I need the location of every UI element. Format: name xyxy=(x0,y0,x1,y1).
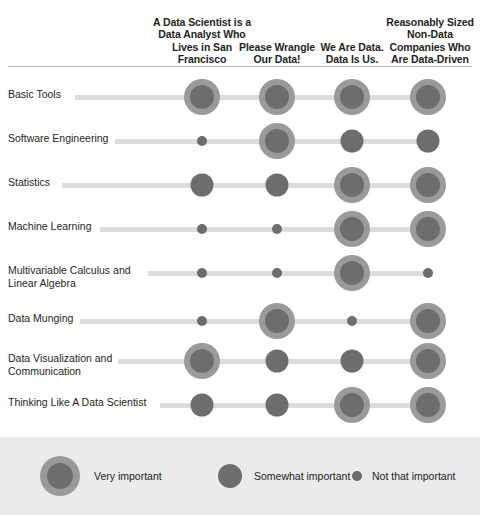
bubble-small[interactable] xyxy=(197,224,207,234)
legend-label-very-important: Very important xyxy=(94,470,162,482)
row-label: Data Munging xyxy=(8,312,73,325)
bubble-large[interactable] xyxy=(334,79,370,115)
bubble-large[interactable] xyxy=(410,211,446,247)
bubble-large[interactable] xyxy=(334,211,370,247)
bubble-small[interactable] xyxy=(272,224,282,234)
bubble-large[interactable] xyxy=(410,167,446,203)
row-label: Machine Learning xyxy=(8,220,91,233)
row-connector-line xyxy=(62,183,428,188)
bubble-chart: A Data Scientist is a Data Analyst Who L… xyxy=(0,0,480,515)
bubble-medium[interactable] xyxy=(341,130,364,153)
bubble-medium[interactable] xyxy=(341,350,364,373)
bubble-large[interactable] xyxy=(334,255,370,291)
bubble-small[interactable] xyxy=(197,316,207,326)
bubble-large[interactable] xyxy=(410,303,446,339)
bubble-medium[interactable] xyxy=(191,174,214,197)
bubble-large[interactable] xyxy=(410,343,446,379)
row-label: Basic Tools xyxy=(8,88,61,101)
legend-item-not-that-important[interactable]: Not that important xyxy=(352,470,455,482)
bubble-medium[interactable] xyxy=(266,394,289,417)
bubble-small[interactable] xyxy=(347,316,357,326)
row-connector-line xyxy=(100,227,428,232)
row-label: Software Engineering xyxy=(8,132,108,145)
bubble-small[interactable] xyxy=(197,136,207,146)
bubble-small[interactable] xyxy=(197,268,207,278)
bubble-large[interactable] xyxy=(184,343,220,379)
legend-bubble-medium-icon xyxy=(218,464,242,488)
bubble-medium[interactable] xyxy=(417,130,440,153)
row-connector-line xyxy=(75,95,428,100)
bubble-large[interactable] xyxy=(334,387,370,423)
legend-bubble-small-icon xyxy=(352,471,362,481)
bubble-medium[interactable] xyxy=(191,394,214,417)
legend-label-not-that-important: Not that important xyxy=(372,470,455,482)
row-connector-line xyxy=(80,319,428,324)
bubble-large[interactable] xyxy=(410,387,446,423)
legend-bubble-large-icon xyxy=(40,456,80,496)
legend-item-somewhat-important[interactable]: Somewhat important xyxy=(218,464,350,488)
bubble-large[interactable] xyxy=(184,79,220,115)
legend-item-very-important[interactable]: Very important xyxy=(40,456,162,496)
row-label: Thinking Like A Data Scientist xyxy=(8,396,146,409)
legend: Very important Somewhat important Not th… xyxy=(0,437,480,515)
row-label: Statistics xyxy=(8,176,50,189)
bubble-medium[interactable] xyxy=(266,174,289,197)
legend-label-somewhat-important: Somewhat important xyxy=(254,470,350,482)
bubble-small[interactable] xyxy=(423,268,433,278)
row-connector-line xyxy=(148,271,428,276)
bubble-large[interactable] xyxy=(259,79,295,115)
bubble-large[interactable] xyxy=(259,303,295,339)
bubble-large[interactable] xyxy=(410,79,446,115)
bubble-large[interactable] xyxy=(334,167,370,203)
row-label: Multivariable Calculus and Linear Algebr… xyxy=(8,264,131,290)
bubble-small[interactable] xyxy=(272,268,282,278)
bubble-medium[interactable] xyxy=(266,350,289,373)
row-label: Data Visualization and Communication xyxy=(8,352,112,378)
plot-area: Basic ToolsSoftware EngineeringStatistic… xyxy=(0,0,480,437)
bubble-large[interactable] xyxy=(259,123,295,159)
